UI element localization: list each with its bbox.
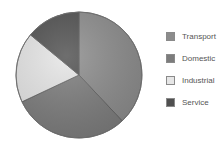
pie-chart: [0, 0, 160, 146]
legend-label-service: Service: [182, 98, 209, 107]
legend-label-transport: Transport: [182, 32, 216, 41]
legend-swatch-service: [166, 98, 175, 107]
legend-swatch-domestic: [166, 54, 175, 63]
legend-label-domestic: Domestic: [182, 54, 215, 63]
legend: Transport Domestic Industrial Service: [166, 31, 216, 119]
legend-label-industrial: Industrial: [182, 76, 214, 85]
legend-item-domestic: Domestic: [166, 53, 216, 64]
legend-item-service: Service: [166, 97, 216, 108]
legend-item-industrial: Industrial: [166, 75, 216, 86]
legend-swatch-industrial: [166, 76, 175, 85]
legend-swatch-transport: [166, 32, 175, 41]
legend-item-transport: Transport: [166, 31, 216, 42]
pie-outline: [16, 12, 142, 138]
